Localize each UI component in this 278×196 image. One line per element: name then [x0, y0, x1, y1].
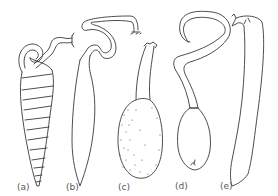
- specimen-e-drawing: [231, 14, 264, 186]
- panel-label-e: (e): [220, 181, 233, 191]
- panel-label-a: (a): [17, 182, 30, 192]
- specimen-drawings: [0, 0, 278, 196]
- panel-label-d: (d): [175, 181, 188, 191]
- specimen-a-drawing: [19, 33, 74, 186]
- specimen-d-drawing: [174, 11, 231, 170]
- panel-label-c: (c): [118, 182, 130, 192]
- specimen-c-drawing: [118, 42, 163, 178]
- specimen-figure: (a) (b) (c) (d) (e): [0, 0, 278, 196]
- panel-label-b: (b): [66, 182, 79, 192]
